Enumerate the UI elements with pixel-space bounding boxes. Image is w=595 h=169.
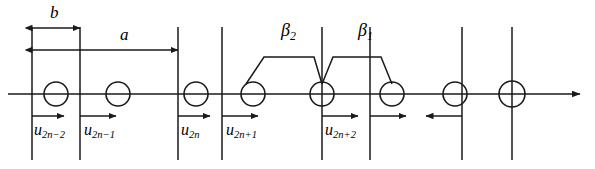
lattice-diagram-figure: b a β2 β1 u2n−2 u2n−1 u2n u2n+1 u2n+2 (0, 0, 595, 169)
displacement-label-u-2n: u2n (181, 122, 200, 138)
bond-label-beta2: β2 (281, 21, 296, 39)
bond-bracket-beta2 (246, 57, 322, 84)
dimension-label-b: b (50, 4, 59, 21)
bond-bracket-beta1 (322, 57, 392, 84)
dimension-label-a: a (120, 26, 129, 43)
bond-label-beta1: β1 (358, 21, 373, 39)
displacement-label-u-2n+2: u2n+2 (325, 122, 356, 138)
diagram-canvas (0, 0, 595, 169)
displacement-label-u-2n-2: u2n−2 (34, 122, 65, 138)
displacement-label-u-2n+1: u2n+1 (226, 122, 257, 138)
displacement-label-u-2n-1: u2n−1 (84, 122, 115, 138)
